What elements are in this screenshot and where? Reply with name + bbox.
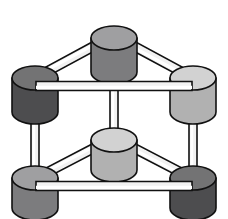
center-lower-node: [91, 128, 137, 182]
strut-layer-front: [36, 82, 192, 91]
right-rear-node: [170, 66, 216, 124]
lattice-canvas: [0, 0, 228, 219]
bottom-right-node: [170, 166, 216, 219]
top-center-node: [91, 26, 137, 84]
left-rear-node: [12, 66, 58, 124]
strut-bottom-left-to-bottom-right: [36, 182, 192, 191]
top-center-node-cap: [91, 26, 137, 50]
strut-left-rear-to-right-rear: [36, 82, 192, 91]
center-lower-node-cap: [91, 128, 137, 152]
cylinder-lattice-diagram: [0, 0, 228, 219]
bottom-left-node: [12, 166, 58, 219]
